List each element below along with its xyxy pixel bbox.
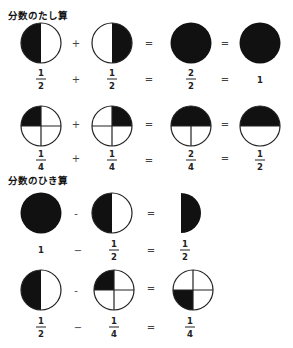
- circle-half-left-icon: [92, 193, 132, 233]
- whole-number: 1: [38, 245, 44, 255]
- fraction-diagram: .o{fill:none;stroke:#222;stroke-width:1.…: [0, 0, 293, 348]
- fraction: 12: [36, 69, 46, 90]
- minus-operator: −: [74, 245, 82, 256]
- equals-operator: =: [145, 119, 153, 130]
- circle-half-right-icon: [92, 23, 132, 63]
- plus-operator: +: [72, 153, 80, 164]
- equals-operator: =: [221, 153, 229, 164]
- plus-operator: +: [72, 38, 80, 49]
- circle-quarter-bottom-left-icon: [173, 270, 213, 310]
- equals-operator: =: [147, 245, 155, 256]
- circle-full-icon: [21, 193, 62, 234]
- semicircle-right-icon: [181, 193, 201, 233]
- circle-quarter-top-right-icon: [92, 106, 132, 146]
- equals-operator: =: [145, 74, 153, 85]
- fraction: 22: [186, 69, 196, 90]
- fraction: 14: [107, 150, 117, 171]
- minus-operator: -: [74, 208, 78, 219]
- equals-operator: =: [221, 74, 229, 85]
- equals-operator: =: [145, 155, 153, 166]
- fraction: 12: [36, 317, 46, 338]
- circle-half-left-icon: [21, 23, 61, 63]
- minus-operator: -: [74, 285, 78, 296]
- equals-operator: =: [147, 283, 155, 294]
- equals-operator: =: [145, 38, 153, 49]
- plus-operator: +: [72, 74, 80, 85]
- equals-operator: =: [147, 322, 155, 333]
- circle-half-top-icon: [240, 106, 280, 146]
- equals-operator: =: [221, 119, 229, 130]
- fraction: 12: [180, 240, 190, 261]
- circle-half-left-icon: [21, 270, 61, 310]
- whole-number: 1: [257, 75, 263, 85]
- fraction: 24: [186, 150, 196, 171]
- circle-full-icon: [240, 23, 281, 64]
- equals-operator: =: [221, 38, 229, 49]
- fraction: 14: [36, 150, 46, 171]
- fraction: 12: [255, 150, 265, 171]
- circle-quarter-top-left-icon: [94, 270, 134, 310]
- circle-quarter-top-left-icon: [21, 106, 61, 146]
- fraction: 12: [107, 69, 117, 90]
- equals-operator: =: [147, 208, 155, 219]
- minus-operator: −: [74, 322, 82, 333]
- circle-half-top-quartered-icon: [171, 106, 211, 146]
- circle-full-icon: [171, 23, 212, 64]
- fraction: 12: [109, 240, 119, 261]
- fraction: 14: [185, 317, 195, 338]
- fraction: 14: [109, 317, 119, 338]
- plus-operator: +: [72, 119, 80, 130]
